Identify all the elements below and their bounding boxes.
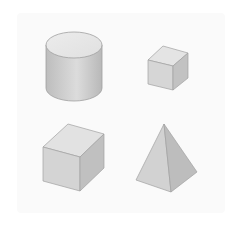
shapes-canvas [0,0,237,228]
large-cube-shape [43,124,104,191]
pyramid-shape [136,124,197,192]
cylinder-shape [46,32,102,101]
small-cube-shape [148,46,188,90]
